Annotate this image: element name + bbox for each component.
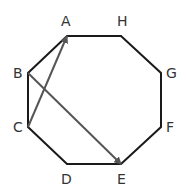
vertex-label-d: D bbox=[61, 171, 72, 187]
arrow-b-to-e bbox=[28, 73, 121, 164]
vertex-label-a: A bbox=[61, 13, 71, 29]
vertex-label-g: G bbox=[166, 65, 177, 81]
octagon-outline bbox=[28, 36, 161, 164]
vertex-labels-group: AHGFEDCB bbox=[13, 13, 177, 187]
arrows-group bbox=[28, 36, 121, 164]
arrow-c-to-a bbox=[28, 36, 67, 127]
vertex-label-h: H bbox=[117, 13, 128, 29]
vertex-label-f: F bbox=[166, 119, 174, 135]
vertex-label-e: E bbox=[117, 171, 126, 187]
vertex-label-b: B bbox=[13, 65, 23, 81]
octagon-diagram: AHGFEDCB bbox=[0, 0, 187, 192]
vertex-label-c: C bbox=[13, 119, 23, 135]
